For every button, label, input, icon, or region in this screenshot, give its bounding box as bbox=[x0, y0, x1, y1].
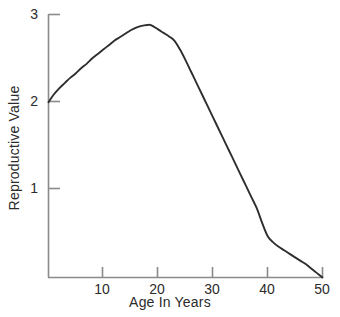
reproductive-value-curve bbox=[49, 25, 323, 278]
y-axis-ticks bbox=[49, 15, 61, 189]
reproductive-value-chart: 3 2 1 10 20 30 40 50 Age In Years Reprod… bbox=[0, 0, 340, 317]
y-axis-title: Reproductive Value bbox=[6, 73, 22, 223]
x-axis-ticks bbox=[103, 267, 323, 278]
y-tick-label-3: 3 bbox=[16, 7, 38, 21]
chart-plot-area bbox=[0, 0, 340, 317]
x-axis-title: Age In Years bbox=[0, 294, 340, 310]
